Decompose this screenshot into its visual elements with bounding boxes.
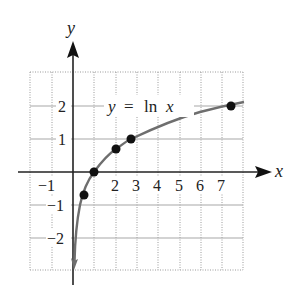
- svg-text:3: 3: [132, 177, 140, 194]
- x-tick-labels: −1 2 3 4 5 6 7: [38, 177, 230, 194]
- y-axis-label: y: [65, 18, 75, 38]
- svg-text:2: 2: [111, 177, 119, 194]
- point-two: [112, 145, 121, 154]
- svg-text:7: 7: [217, 177, 225, 194]
- x-axis: [18, 166, 272, 178]
- point-half: [80, 191, 89, 200]
- svg-text:4: 4: [153, 177, 161, 194]
- x-axis-label: x: [274, 161, 283, 181]
- svg-text:−2: −2: [47, 230, 64, 247]
- svg-text:2: 2: [58, 98, 66, 115]
- point-e: [127, 135, 136, 144]
- point-one: [90, 168, 99, 177]
- svg-text:6: 6: [196, 177, 204, 194]
- svg-text:−1: −1: [38, 177, 55, 194]
- y-axis: [67, 41, 79, 285]
- svg-text:−1: −1: [47, 197, 64, 214]
- point-e-squared: [227, 102, 236, 111]
- svg-text:5: 5: [175, 177, 183, 194]
- chart-canvas: y = ln x y x −1 2 3 4 5 6 7 2 1 −1 −2: [0, 0, 286, 285]
- svg-text:1: 1: [58, 131, 66, 148]
